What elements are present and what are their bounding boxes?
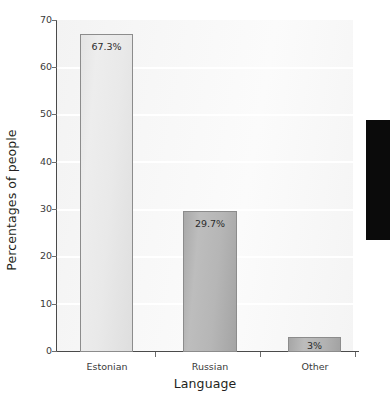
bar-russian: 29.7% — [183, 211, 237, 352]
y-tick-label-60: 60 — [28, 62, 52, 72]
bar-value-other: 3% — [289, 341, 340, 351]
y-tick-label-0: 0 — [28, 346, 52, 356]
y-tick-labels: 70 60 50 40 30 20 10 0 — [24, 0, 52, 400]
x-tick-mark-3 — [355, 352, 356, 357]
y-tick-mark-40 — [52, 162, 57, 163]
y-tick-label-70: 70 — [28, 15, 52, 25]
y-tick-mark-50 — [52, 114, 57, 115]
bar-other: 3% — [288, 337, 341, 352]
y-tick-mark-60 — [52, 67, 57, 68]
y-tick-label-50: 50 — [28, 109, 52, 119]
x-tick-mark-1 — [155, 352, 156, 357]
x-category-label-other: Other — [284, 362, 346, 372]
bar-value-russian: 29.7% — [184, 219, 236, 229]
y-tick-label-40: 40 — [28, 157, 52, 167]
y-tick-label-10: 10 — [28, 299, 52, 309]
y-tick-mark-10 — [52, 304, 57, 305]
y-axis-title: Percentages of people — [0, 0, 22, 400]
y-tick-mark-20 — [52, 256, 57, 257]
bar-estonian: 67.3% — [80, 34, 133, 352]
y-tick-mark-70 — [52, 20, 57, 21]
x-axis-title: Language — [57, 376, 353, 391]
y-tick-label-30: 30 — [28, 204, 52, 214]
y-axis-line — [56, 20, 57, 352]
x-category-label-estonian: Estonian — [76, 362, 138, 372]
bar-value-estonian: 67.3% — [81, 42, 132, 52]
black-scan-block — [366, 120, 390, 240]
y-tick-label-20: 20 — [28, 251, 52, 261]
bar-chart-figure: 70 60 50 40 30 20 10 0 67.3% 29.7% 3% Es… — [0, 0, 390, 400]
y-tick-mark-0 — [52, 351, 57, 352]
y-tick-mark-30 — [52, 209, 57, 210]
x-tick-mark-2 — [260, 352, 261, 357]
x-category-label-russian: Russian — [179, 362, 241, 372]
